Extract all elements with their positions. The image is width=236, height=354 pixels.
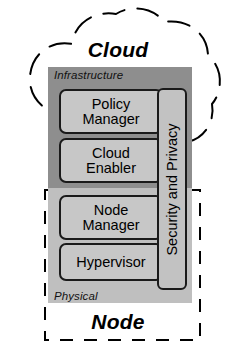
policy-manager-label-line1: Policy [92,97,131,112]
node-title: Node [0,310,236,334]
security-and-privacy-label: Security and Privacy [165,123,180,255]
cloud-enabler-box[interactable]: Cloud Enabler [59,138,163,183]
diagram-canvas: Infrastructure Physical Policy Manager C… [0,0,236,354]
infrastructure-layer-label: Infrastructure [54,69,123,81]
physical-layer-label: Physical [54,290,98,302]
node-manager-box[interactable]: Node Manager [59,195,163,240]
node-manager-label-line2: Manager [82,218,139,233]
policy-manager-label-line2: Manager [82,112,139,127]
cloud-enabler-label-line2: Enabler [86,161,136,176]
hypervisor-box[interactable]: Hypervisor [59,243,163,281]
security-and-privacy-box[interactable]: Security and Privacy [157,88,187,290]
node-manager-label-line1: Node [94,203,129,218]
architecture-stack-panel: Infrastructure Physical Policy Manager C… [48,67,192,303]
policy-manager-box[interactable]: Policy Manager [59,89,163,134]
hypervisor-label: Hypervisor [76,255,145,270]
cloud-enabler-label-line1: Cloud [92,146,130,161]
cloud-title: Cloud [0,38,236,62]
